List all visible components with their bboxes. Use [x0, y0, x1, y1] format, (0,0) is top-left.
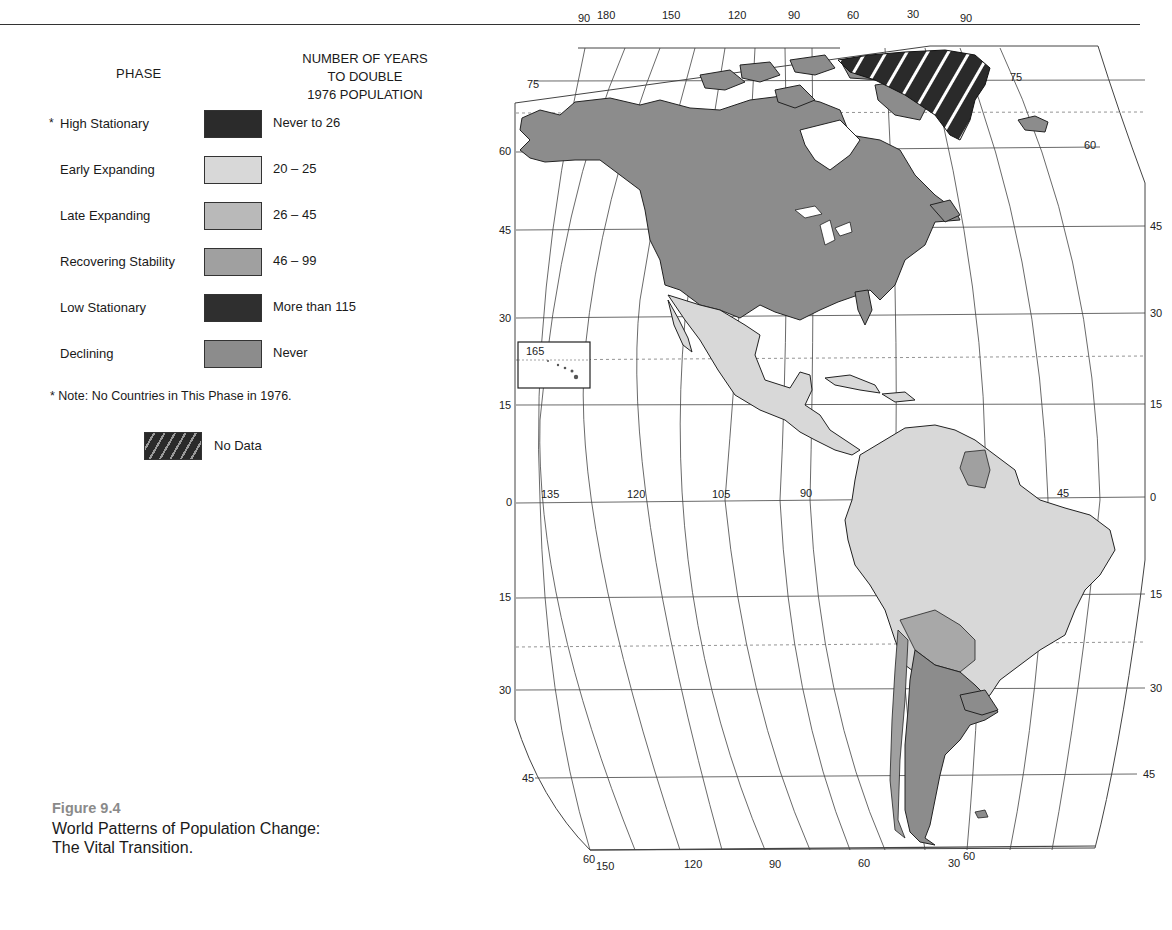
map-svg: 90 180 150 120 90 60 30 90 75 60 45 30 1…: [490, 0, 1172, 930]
legend-row-recovering-stability: Recovering Stability 46 – 99: [0, 248, 470, 278]
map-tick-label: 0: [1150, 491, 1156, 503]
map-tick-label: 60: [1084, 139, 1096, 151]
map-tick-label: 15: [1150, 398, 1162, 410]
legend-years-label: 46 – 99: [273, 253, 316, 268]
legend-swatch: [204, 202, 262, 230]
map-tick-label: 60: [499, 145, 511, 157]
legend-header-years-line: NUMBER OF YEARS: [290, 50, 440, 68]
legend: PHASE NUMBER OF YEARS TO DOUBLE 1976 POP…: [0, 0, 470, 480]
phase-text: High Stationary: [60, 116, 149, 131]
map-tick-label: 165: [526, 345, 544, 357]
map-tick-label: 90: [960, 12, 972, 24]
legend-years-label: Never: [273, 345, 308, 360]
legend-years-label: Never to 26: [273, 115, 340, 130]
map-tick-label: 90: [578, 12, 590, 24]
no-data-label: No Data: [214, 438, 262, 453]
map-tick-label: 60: [963, 850, 975, 862]
map-tick-label: 30: [907, 8, 919, 20]
map-tick-label: 120: [684, 858, 702, 870]
map-tick-label: 90: [769, 858, 781, 870]
region-greenland-no-data: [838, 50, 990, 140]
region-mexico-central-america: [668, 295, 915, 455]
legend-swatch: [204, 294, 262, 322]
map-tick-label: 45: [499, 224, 511, 236]
map-tick-label: 120: [627, 488, 645, 500]
legend-header-years: NUMBER OF YEARS TO DOUBLE 1976 POPULATIO…: [290, 50, 440, 104]
asterisk-marker: *: [49, 116, 54, 130]
map-tick-label: 45: [522, 772, 534, 784]
map-tick-label: 75: [527, 78, 539, 90]
map-tick-label: 15: [499, 591, 511, 603]
legend-phase-label: Early Expanding: [60, 162, 155, 177]
legend-phase-label: Late Expanding: [60, 208, 150, 223]
legend-swatch: [204, 340, 262, 368]
map-tick-label: 90: [788, 9, 800, 21]
legend-phase-label: Declining: [60, 346, 113, 361]
map-tick-label: 75: [1010, 71, 1022, 83]
map-tick-label: 120: [728, 9, 746, 21]
legend-years-label: 26 – 45: [273, 207, 316, 222]
map-americas: 90 180 150 120 90 60 30 90 75 60 45 30 1…: [490, 0, 1172, 930]
map-tick-label: 15: [499, 399, 511, 411]
legend-row-early-expanding: Early Expanding 20 – 25: [0, 156, 470, 186]
figure-caption: Figure 9.4 World Patterns of Population …: [52, 800, 320, 857]
map-tick-label: 45: [1057, 487, 1069, 499]
falkland-islands: [975, 810, 988, 818]
legend-row-declining: Declining Never: [0, 340, 470, 370]
map-tick-label: 0: [506, 496, 512, 508]
legend-header-phase: PHASE: [116, 66, 162, 81]
map-tick-label: 30: [1150, 307, 1162, 319]
map-tick-label: 105: [712, 488, 730, 500]
legend-years-label: More than 115: [273, 299, 356, 314]
map-tick-label: 45: [1143, 768, 1155, 780]
map-tick-label: 180: [597, 9, 615, 21]
map-tick-label: 45: [1150, 220, 1162, 232]
map-tick-label: 30: [948, 857, 960, 869]
map-tick-label: 60: [847, 9, 859, 21]
legend-swatch: [204, 156, 262, 184]
map-tick-label: 30: [499, 312, 511, 324]
legend-note: * Note: No Countries in This Phase in 19…: [50, 389, 292, 403]
map-tick-label: 135: [541, 488, 559, 500]
map-tick-label: 90: [800, 487, 812, 499]
map-tick-label: 15: [1150, 588, 1162, 600]
legend-row-high-stationary: *High Stationary Never to 26: [0, 110, 470, 140]
legend-years-label: 20 – 25: [273, 161, 316, 176]
legend-phase-label: *High Stationary: [60, 116, 149, 131]
legend-row-low-stationary: Low Stationary More than 115: [0, 294, 470, 324]
figure-title-line: The Vital Transition.: [52, 838, 320, 857]
figure-number: Figure 9.4: [52, 800, 320, 816]
map-tick-label: 30: [1150, 682, 1162, 694]
figure-title: World Patterns of Population Change: The…: [52, 819, 320, 857]
legend-swatch: [204, 110, 262, 138]
map-tick-label: 60: [858, 857, 870, 869]
figure-title-line: World Patterns of Population Change:: [52, 819, 320, 838]
map-tick-label: 150: [662, 9, 680, 21]
map-tick-label: 60: [583, 853, 595, 865]
legend-swatch: [204, 248, 262, 276]
legend-phase-label: Recovering Stability: [60, 254, 175, 269]
map-tick-label: 30: [499, 684, 511, 696]
legend-header-years-line: 1976 POPULATION: [290, 86, 440, 104]
no-data-hatch-swatch: [144, 432, 202, 460]
legend-header-years-line: TO DOUBLE: [290, 68, 440, 86]
legend-row-late-expanding: Late Expanding 26 – 45: [0, 202, 470, 232]
legend-phase-label: Low Stationary: [60, 300, 146, 315]
map-tick-label: 150: [596, 860, 614, 872]
